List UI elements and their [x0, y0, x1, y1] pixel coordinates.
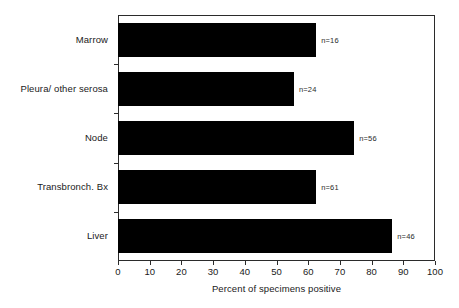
bar-node [118, 121, 354, 155]
bar-annotation-pleura: n=24 [299, 84, 317, 93]
category-label-marrow: Marrow [76, 34, 108, 45]
x-axis-tick [372, 261, 373, 265]
bar-pleura [118, 72, 294, 106]
x-axis-title: Percent of specimens positive [118, 283, 435, 294]
bars-layer: n=16 n=24 n=56 n=61 n=46 [118, 15, 435, 261]
bar-row: n=24 [118, 72, 435, 106]
y-axis-tick [114, 212, 118, 213]
x-axis-tick-label: 50 [271, 266, 282, 277]
x-axis-tick-label: 80 [366, 266, 377, 277]
bar-annotation-node: n=56 [359, 134, 377, 143]
category-label-transbronch: Transbronch. Bx [37, 181, 108, 192]
x-axis-tick-label: 40 [240, 266, 251, 277]
x-axis-tick-label: 20 [176, 266, 187, 277]
y-axis-tick [114, 163, 118, 164]
bar-transbronch [118, 170, 316, 204]
x-axis-tick [213, 261, 214, 265]
y-axis-tick [114, 113, 118, 114]
x-axis-tick-label: 90 [398, 266, 409, 277]
bar-liver [118, 219, 392, 253]
bar-annotation-transbronch: n=61 [321, 183, 339, 192]
bar-row: n=16 [118, 23, 435, 57]
category-label-liver: Liver [87, 230, 108, 241]
x-axis-tick [308, 261, 309, 265]
bar-annotation-liver: n=46 [397, 232, 415, 241]
x-axis-tick-label: 70 [335, 266, 346, 277]
x-axis-tick-label: 100 [427, 266, 443, 277]
y-axis-tick [114, 64, 118, 65]
bar-row: n=46 [118, 219, 435, 253]
x-axis-tick-label: 30 [208, 266, 219, 277]
x-axis-tick [245, 261, 246, 265]
x-axis-tick [340, 261, 341, 265]
x-axis-tick [277, 261, 278, 265]
category-label-node: Node [85, 132, 108, 143]
x-axis-tick-label: 10 [144, 266, 155, 277]
category-axis-labels: Marrow Pleura/ other serosa Node Transbr… [0, 15, 114, 261]
bar-row: n=56 [118, 121, 435, 155]
x-axis-tick-label: 0 [115, 266, 120, 277]
x-axis: Percent of specimens positive 0102030405… [118, 261, 435, 305]
x-axis-tick [403, 261, 404, 265]
bar-annotation-marrow: n=16 [321, 35, 339, 44]
category-label-pleura: Pleura/ other serosa [20, 83, 108, 94]
x-axis-tick [181, 261, 182, 265]
x-axis-tick [435, 261, 436, 265]
x-axis-tick-label: 60 [303, 266, 314, 277]
bar-chart: Marrow Pleura/ other serosa Node Transbr… [0, 0, 459, 308]
bar-row: n=61 [118, 170, 435, 204]
bar-marrow [118, 23, 316, 57]
x-axis-tick [118, 261, 119, 265]
x-axis-tick [150, 261, 151, 265]
